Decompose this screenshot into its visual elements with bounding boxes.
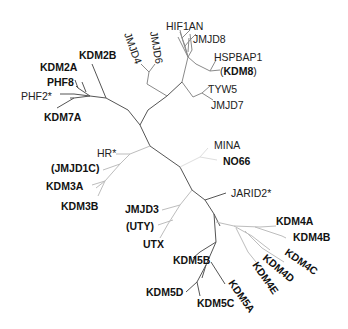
label-kdm4a: KDM4A — [276, 215, 314, 227]
label-kdm2b: KDM2B — [79, 49, 117, 61]
label-kdm4b: KDM4B — [293, 231, 331, 243]
label-phf8: PHF8 — [47, 76, 74, 88]
label-jmjd6: JMJD6 — [148, 30, 166, 64]
label-phf2: PHF2* — [21, 90, 52, 102]
label-kdm7a: KDM7A — [44, 111, 82, 123]
label-kdm2a: KDM2A — [40, 61, 78, 73]
label-kdm5c: KDM5C — [197, 297, 235, 309]
clade-mina-no66 — [180, 148, 217, 167]
branch-jarid2 — [205, 193, 226, 200]
label-utx: UTX — [143, 238, 164, 250]
clade-kdm6 — [158, 190, 192, 238]
label-jmjd4: JMJD4 — [122, 31, 145, 66]
label-kdm3b: KDM3B — [61, 200, 99, 212]
label-jarid2: JARID2* — [231, 187, 271, 199]
label-hspbap1: HSPBAP1 — [214, 51, 263, 63]
phylogenetic-tree: HIF1AN JMJD8 JMJD4 JMJD6 HSPBAP1 (KDM8) … — [0, 0, 348, 329]
label-jmjd1c: (JMJD1C) — [51, 162, 99, 174]
label-jmjd8: JMJD8 — [193, 33, 226, 45]
label-hif1an: HIF1AN — [166, 20, 203, 32]
label-hr: HR* — [97, 147, 116, 159]
label-tyw5: TYW5 — [208, 83, 237, 95]
label-uty: (UTY) — [126, 220, 154, 232]
clade-jmjd4-jmjd6 — [141, 64, 167, 96]
label-kdm5d: KDM5D — [146, 286, 184, 298]
label-kdm5b: KDM5B — [173, 254, 211, 266]
label-jmjd7: JMJD7 — [211, 99, 244, 111]
label-kdm8: (KDM8) — [220, 65, 257, 77]
label-jmjd3: JMJD3 — [125, 203, 159, 215]
label-kdm3a: KDM3A — [46, 180, 84, 192]
label-no66: NO66 — [223, 155, 251, 167]
leaf-labels: HIF1AN JMJD8 JMJD4 JMJD6 HSPBAP1 (KDM8) … — [21, 20, 331, 315]
label-mina: MINA — [214, 139, 240, 151]
